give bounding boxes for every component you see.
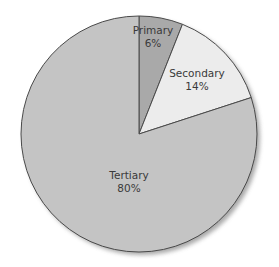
label-tertiary-name: Tertiary xyxy=(108,169,148,181)
label-tertiary-pct: 80% xyxy=(117,182,140,194)
label-secondary-name: Secondary xyxy=(169,67,225,79)
label-secondary-pct: 14% xyxy=(185,80,208,92)
label-primary-name: Primary xyxy=(133,24,174,36)
pie-chart: Primary 6% Secondary 14% Tertiary 80% xyxy=(0,0,279,267)
label-primary-pct: 6% xyxy=(145,37,162,49)
pie-slices xyxy=(21,16,257,252)
